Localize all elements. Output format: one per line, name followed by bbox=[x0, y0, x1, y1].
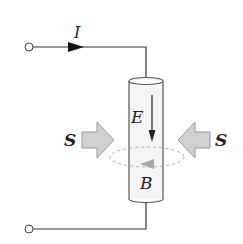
bottom-terminal bbox=[25, 225, 33, 233]
poynting-right-arrow-icon bbox=[178, 122, 210, 158]
poynting-diagram: I E B S S bbox=[0, 0, 243, 244]
bottom-wire bbox=[33, 202, 146, 229]
current-arrow-icon bbox=[68, 42, 84, 52]
e-field-label: E bbox=[130, 107, 144, 127]
current-label: I bbox=[73, 23, 81, 42]
top-terminal bbox=[25, 43, 33, 51]
b-field-label: B bbox=[139, 173, 153, 193]
poynting-right-label: S bbox=[215, 130, 227, 150]
poynting-left-label: S bbox=[64, 130, 76, 150]
top-wire bbox=[33, 47, 146, 79]
poynting-left-arrow-icon bbox=[82, 122, 114, 158]
